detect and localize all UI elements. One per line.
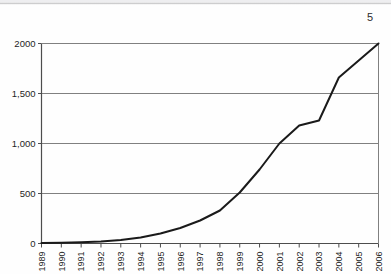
x-axis-tick-label: 2001 — [275, 252, 285, 272]
x-axis-tick-label: 1997 — [195, 252, 205, 272]
x-axis-tick-label: 2004 — [334, 252, 344, 272]
x-axis-labels-group: 1989199019911992199319941995199619971998… — [37, 252, 384, 272]
y-axis-tick-label: 1,500 — [12, 88, 36, 99]
x-axis-tick-label: 2000 — [255, 252, 265, 272]
y-axis-tick-label: 0 — [30, 238, 35, 249]
x-axis-tick-label: 1995 — [156, 252, 166, 272]
gridlines-group — [42, 44, 379, 194]
x-axis-tick-label: 2005 — [354, 252, 364, 272]
x-axis-tick-label: 1991 — [76, 252, 86, 272]
line-chart-figure: 05001,0001,5002000 198919901991199219931… — [0, 0, 391, 274]
x-axis-tick-label: 1990 — [57, 252, 67, 272]
x-axis-tick-label: 1996 — [176, 252, 186, 272]
x-axis-tick-label: 1989 — [37, 252, 47, 272]
x-axis-tick-label: 2006 — [374, 252, 384, 272]
y-axis-labels-group: 05001,0001,5002000 — [12, 38, 36, 249]
x-axis-tick-label: 1994 — [136, 252, 146, 272]
x-axis-tick-label: 1993 — [116, 252, 126, 272]
x-axis-tick-label: 1992 — [96, 252, 106, 272]
document-page: 5 05001,0001,5002000 1989199019911992199… — [0, 0, 391, 274]
x-axis-tick-label: 1998 — [215, 252, 225, 272]
y-axis-tick-label: 1,000 — [12, 138, 36, 149]
y-axis-tick-label: 2000 — [14, 38, 35, 49]
y-axis-tick-label: 500 — [20, 188, 36, 199]
x-axis-tick-label: 2003 — [314, 252, 324, 272]
chart-canvas: 05001,0001,5002000 198919901991199219931… — [0, 0, 391, 274]
x-tick-marks-group — [42, 244, 379, 248]
x-axis-tick-label: 2002 — [295, 252, 305, 272]
x-axis-tick-label: 1999 — [235, 252, 245, 272]
